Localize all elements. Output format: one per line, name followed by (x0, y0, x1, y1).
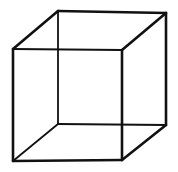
cube-svg (0, 0, 178, 172)
back-top-edge (58, 11, 166, 13)
depth-edge-bottom-left (13, 124, 58, 161)
back-bottom-edge (58, 124, 166, 125)
cube-diagram (0, 0, 178, 172)
front-top-edge (13, 49, 122, 50)
depth-edge-top-right (122, 13, 166, 50)
depth-edge-top-left (13, 11, 58, 49)
front-bottom-edge (13, 160, 122, 161)
depth-edge-bottom-right (122, 125, 166, 160)
front-face (13, 49, 122, 161)
depth-edges (13, 11, 166, 161)
